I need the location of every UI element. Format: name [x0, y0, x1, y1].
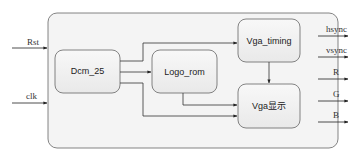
g-label: G [333, 89, 340, 99]
hsync-label: hsync [326, 24, 347, 34]
dcm-block: Dcm_25 [55, 50, 120, 93]
rst-label: Rst [27, 37, 40, 47]
vsync-label: vsync [326, 45, 347, 55]
vga-timing-label: Vga_timing [246, 36, 291, 46]
dcm-label: Dcm_25 [71, 66, 105, 76]
r-label: R [333, 67, 339, 77]
vga-display-block: Vga显示 [238, 84, 300, 128]
clk-label: clk [26, 91, 37, 101]
vga-timing-block: Vga_timing [238, 19, 300, 62]
block-diagram: Rst clk Dcm_25 Logo_rom Vga_timing Vga显示… [0, 0, 357, 158]
logo-rom-block: Logo_rom [152, 50, 217, 93]
b-label: B [333, 110, 339, 120]
vga-display-label: Vga显示 [252, 101, 286, 111]
logo-rom-label: Logo_rom [164, 67, 205, 77]
